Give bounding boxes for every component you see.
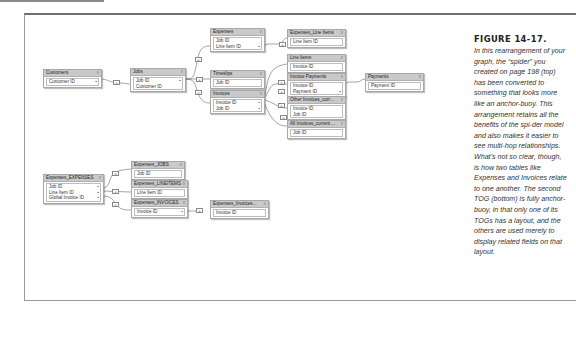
rel-exp-invoices[interactable]: = (112, 202, 119, 207)
table-line-items[interactable]: Line Items≡ Invoice ID (287, 54, 346, 73)
field[interactable]: Payment ID (369, 83, 420, 89)
menu-icon[interactable]: ≡ (183, 200, 185, 206)
rel-invoices-lineitems[interactable]: = (278, 80, 285, 85)
table-title: Line Items (290, 55, 311, 60)
rel-jobs-invoices[interactable]: = (195, 90, 202, 95)
menu-icon[interactable]: ≡ (264, 201, 266, 207)
field[interactable]: Line Item ID▪ (214, 44, 261, 50)
menu-icon[interactable]: ≡ (419, 74, 421, 80)
table-title: Other Invoices_curr... (290, 97, 334, 102)
table-expenses-lineitems[interactable]: Expenses_LINEITEMS≡ Line Item ID (131, 180, 188, 199)
table-expenses-invoices[interactable]: Expenses_INVOICES≡ Invoice ID▪ (131, 199, 188, 218)
menu-icon[interactable]: ≡ (97, 70, 99, 76)
table-title: Customers (46, 70, 68, 75)
field[interactable]: Payment ID▪ (291, 89, 342, 95)
field[interactable]: Invoice ID (291, 64, 342, 70)
rel-invoices-all[interactable]: = (280, 115, 287, 120)
menu-icon[interactable]: ≡ (260, 91, 262, 97)
field[interactable]: Job ID (214, 80, 261, 86)
table-title: Timeslips (213, 71, 232, 76)
table-title: Expenses_EXPENSES (46, 175, 94, 180)
table-customers[interactable]: Customers≡ Customer ID▪ (43, 69, 102, 88)
field[interactable]: Global Invoice ID▪ (47, 195, 100, 201)
field[interactable]: Job ID▪ (214, 106, 261, 112)
rel-invoices-other[interactable]: = (278, 103, 285, 108)
table-all-invoices-current[interactable]: All Invoices_current ...≡ Job ID (287, 120, 346, 139)
rel-jobs-timeslips[interactable]: = (196, 77, 203, 82)
menu-icon[interactable]: ≡ (180, 162, 182, 168)
figure-caption: FIGURE 14-17. In this rearrangement of y… (474, 34, 568, 258)
table-title: Expenses_LINEITEMS (134, 181, 181, 186)
table-title: Payments (368, 74, 388, 79)
rel-jobs-expenses[interactable]: = (195, 57, 202, 62)
table-title: Expenses_JOBS (134, 162, 169, 167)
table-title: Expenses_Invoices... (213, 201, 256, 206)
figure-label: FIGURE 14-17. (474, 34, 568, 44)
menu-icon[interactable]: ≡ (260, 29, 262, 35)
field[interactable]: Line Item ID (291, 39, 342, 45)
menu-icon[interactable]: ≡ (341, 30, 343, 36)
field[interactable]: Job ID (291, 112, 342, 118)
field[interactable]: Invoice ID▪ (135, 209, 184, 215)
table-title: Expenses_INVOICES (134, 200, 179, 205)
table-title: Invoice Payments (290, 74, 326, 79)
field[interactable]: Customer ID (134, 84, 182, 90)
table-expenses-line-items[interactable]: Expenses_Line Items≡ Line Item ID (287, 29, 346, 48)
table-title: Invoices (213, 91, 230, 96)
menu-icon[interactable]: ≡ (183, 181, 185, 187)
table-other-invoices-current[interactable]: Other Invoices_curr...≡ Invoice ID Job I… (287, 96, 346, 120)
rel-invoices-payments[interactable]: = (278, 89, 285, 94)
rel-exp-lineitems[interactable]: = (112, 189, 119, 194)
table-expenses-jobs[interactable]: Expenses_JOBS≡ Job ID (131, 161, 185, 180)
menu-icon[interactable]: ≡ (341, 97, 343, 103)
menu-icon[interactable]: ≡ (99, 175, 101, 181)
field[interactable]: Invoice ID (214, 210, 265, 216)
rel-expinv-invoices[interactable]: = (196, 208, 203, 213)
rel-exp-jobs[interactable]: = (112, 171, 119, 176)
field[interactable]: Job ID (135, 171, 181, 177)
table-title: Jobs (133, 69, 143, 74)
field[interactable]: Line Item ID (135, 190, 184, 196)
table-title: Expenses (213, 29, 233, 34)
table-jobs[interactable]: Jobs≡ Job ID▪ Customer ID (130, 68, 186, 92)
table-payments[interactable]: Payments≡ Payment ID (365, 73, 424, 92)
table-title: Expenses_Line Items (290, 30, 334, 35)
menu-icon[interactable]: ≡ (181, 69, 183, 75)
rel-customers-jobs[interactable]: = (113, 80, 120, 85)
field[interactable]: Job ID (291, 130, 342, 136)
table-invoice-payments[interactable]: Invoice Payments≡ Invoice ID Payment ID▪ (287, 73, 346, 97)
table-timeslips[interactable]: Timeslips≡ Job ID (210, 70, 265, 89)
table-invoices[interactable]: Invoices≡ Invoice ID▪ Job ID▪ (210, 90, 265, 114)
table-expenses[interactable]: Expenses≡ Job ID Line Item ID▪ (210, 28, 265, 52)
caption-text: In this rearrangement of your graph, the… (474, 46, 568, 258)
menu-icon[interactable]: ≡ (341, 74, 343, 80)
table-expenses-expenses[interactable]: Expenses_EXPENSES≡ Job ID▪ Line Item ID▪… (43, 174, 104, 204)
menu-icon[interactable]: ≡ (341, 55, 343, 61)
table-expenses-invoices-2[interactable]: Expenses_Invoices...≡ Invoice ID (210, 200, 269, 219)
field[interactable]: Customer ID▪ (47, 79, 98, 85)
menu-icon[interactable]: ≡ (341, 121, 343, 127)
table-title: All Invoices_current ... (290, 121, 335, 126)
menu-icon[interactable]: ≡ (260, 71, 262, 77)
rel-expenses-lineitems[interactable]: = (279, 42, 286, 47)
